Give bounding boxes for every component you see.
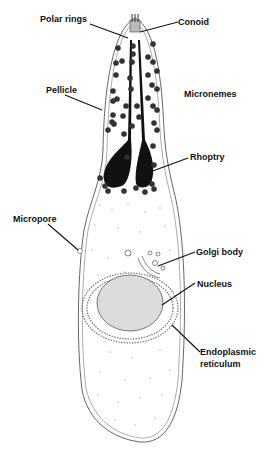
conoid-shape <box>130 14 140 32</box>
nucleus-shape <box>97 275 163 331</box>
label-reticulum: reticulum <box>200 359 241 369</box>
label-micropore: Micropore <box>13 214 57 224</box>
label-conoid: Conoid <box>178 17 209 27</box>
label-rhoptry: Rhoptry <box>190 152 225 162</box>
label-polar-rings: Polar rings <box>40 14 87 24</box>
label-micronemes: Micronemes <box>184 89 237 99</box>
cell-diagram: Polar rings Conoid Pellicle Micronemes R… <box>0 0 272 449</box>
leader-pellicle <box>65 95 102 110</box>
leader-micropore <box>48 224 78 250</box>
label-endoplasmic: Endoplasmic <box>200 347 256 357</box>
micropore-shape <box>78 249 83 254</box>
label-pellicle: Pellicle <box>46 85 77 95</box>
leader-conoid <box>140 22 178 32</box>
label-golgi-body: Golgi body <box>196 247 243 257</box>
label-nucleus: Nucleus <box>197 279 232 289</box>
